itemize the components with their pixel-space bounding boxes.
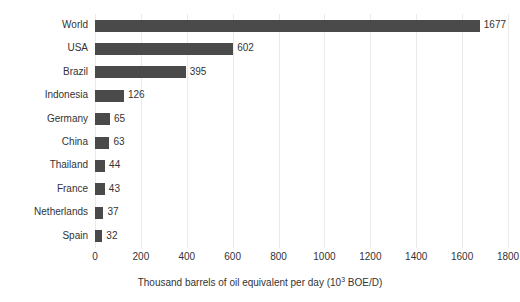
bar-value-label: 1677 — [484, 18, 506, 32]
x-tick-label-200: 200 — [133, 250, 150, 264]
bar-world[interactable] — [95, 20, 480, 32]
bar-thailand[interactable] — [95, 160, 105, 172]
x-tick-label-600: 600 — [224, 250, 241, 264]
x-axis-title: Thousand barrels of oil equivalent per d… — [0, 276, 520, 290]
bar-indonesia[interactable] — [95, 90, 124, 102]
bar-value-label: 32 — [106, 229, 117, 243]
bar-row: 65 — [95, 108, 508, 131]
bar-row: 395 — [95, 61, 508, 84]
category-row: Indonesia — [0, 84, 88, 107]
bar-spain[interactable] — [95, 230, 102, 242]
x-tick-label-1400: 1400 — [405, 250, 427, 264]
category-row: Germany — [0, 108, 88, 131]
category-label-germany: Germany — [47, 112, 88, 126]
bar-row: 126 — [95, 84, 508, 107]
category-label-france: France — [57, 182, 88, 196]
x-tick-label-1600: 1600 — [451, 250, 473, 264]
bar-netherlands[interactable] — [95, 207, 103, 219]
category-label-spain: Spain — [62, 229, 88, 243]
bar-value-label: 126 — [128, 88, 145, 102]
bar-value-label: 65 — [114, 112, 125, 126]
bar-value-label: 37 — [107, 205, 118, 219]
category-label-brazil: Brazil — [63, 65, 88, 79]
plot-area: 1677602395126656344433732 — [95, 14, 508, 248]
category-row: Thailand — [0, 154, 88, 177]
x-tick-label-1000: 1000 — [313, 250, 335, 264]
bar-brazil[interactable] — [95, 66, 186, 78]
category-label-netherlands: Netherlands — [34, 205, 88, 219]
category-label-usa: USA — [67, 41, 88, 55]
category-label-world: World — [62, 18, 88, 32]
bar-row: 32 — [95, 225, 508, 248]
x-tick-label-0: 0 — [92, 250, 98, 264]
x-axis-title-after: BOE/D) — [345, 277, 382, 288]
bar-usa[interactable] — [95, 43, 233, 55]
bar-row: 43 — [95, 178, 508, 201]
bar-row: 37 — [95, 201, 508, 224]
bar-row: 44 — [95, 154, 508, 177]
gridline-1800 — [508, 14, 509, 248]
category-row: World — [0, 14, 88, 37]
bar-value-label: 602 — [237, 41, 254, 55]
bar-china[interactable] — [95, 137, 109, 149]
bar-row: 63 — [95, 131, 508, 154]
category-axis: WorldUSABrazilIndonesiaGermanyChinaThail… — [0, 14, 88, 248]
category-row: China — [0, 131, 88, 154]
bar-france[interactable] — [95, 183, 105, 195]
category-label-china: China — [62, 135, 88, 149]
x-axis-ticks: 020040060080010001200140016001800 — [0, 250, 520, 266]
x-tick-label-1200: 1200 — [359, 250, 381, 264]
x-tick-label-400: 400 — [178, 250, 195, 264]
category-row: Spain — [0, 225, 88, 248]
bar-chart: WorldUSABrazilIndonesiaGermanyChinaThail… — [0, 0, 520, 302]
category-label-thailand: Thailand — [50, 158, 88, 172]
bar-row: 1677 — [95, 14, 508, 37]
bar-value-label: 63 — [113, 135, 124, 149]
bar-row: 602 — [95, 37, 508, 60]
bar-germany[interactable] — [95, 113, 110, 125]
bar-value-label: 395 — [190, 65, 207, 79]
category-row: Brazil — [0, 61, 88, 84]
category-label-indonesia: Indonesia — [45, 88, 88, 102]
bar-value-label: 44 — [109, 158, 120, 172]
x-tick-label-800: 800 — [270, 250, 287, 264]
x-axis-title-before: Thousand barrels of oil equivalent per d… — [138, 277, 341, 288]
bar-value-label: 43 — [109, 182, 120, 196]
x-tick-label-1800: 1800 — [497, 250, 519, 264]
category-row: Netherlands — [0, 201, 88, 224]
category-row: USA — [0, 37, 88, 60]
bar-rows: 1677602395126656344433732 — [95, 14, 508, 248]
category-row: France — [0, 178, 88, 201]
